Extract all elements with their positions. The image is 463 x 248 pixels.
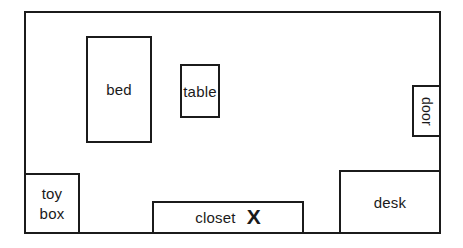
floor-plan: bed table door toy box closet X desk bbox=[0, 0, 463, 248]
closet-label: closet bbox=[195, 210, 235, 225]
door-label: door bbox=[420, 97, 434, 126]
bed-box: bed bbox=[86, 36, 152, 143]
table-box: table bbox=[180, 64, 220, 118]
toy-box-box: toy box bbox=[24, 173, 80, 234]
desk-box: desk bbox=[339, 170, 441, 234]
desk-label: desk bbox=[374, 195, 407, 210]
bed-label: bed bbox=[106, 82, 132, 97]
closet-box: closet X bbox=[152, 201, 304, 234]
toy-box-label: toy box bbox=[40, 184, 65, 223]
door-box: door bbox=[412, 85, 441, 137]
table-label: table bbox=[183, 84, 217, 99]
closet-x-marker: X bbox=[247, 206, 261, 227]
toy-box-label-line2: box bbox=[40, 204, 65, 224]
toy-box-label-line1: toy bbox=[42, 184, 63, 204]
